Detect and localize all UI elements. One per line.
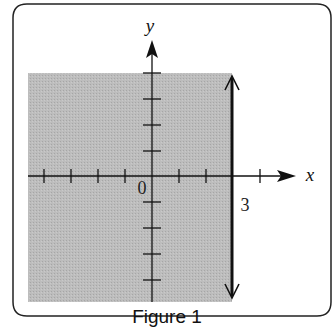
- y-axis-label: y: [144, 15, 155, 36]
- coordinate-plane-figure: y x 0 3: [0, 0, 334, 329]
- shaded-region: [28, 73, 232, 302]
- boundary-value-label: 3: [241, 195, 250, 215]
- origin-label: 0: [138, 178, 147, 198]
- x-axis-label: x: [305, 164, 315, 185]
- figure-caption: Figure 1: [0, 306, 334, 328]
